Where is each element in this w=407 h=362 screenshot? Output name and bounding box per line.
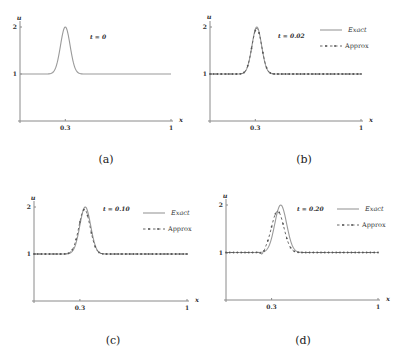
approx-marker [225, 252, 227, 254]
approx-marker [248, 252, 250, 254]
approx-marker [37, 253, 39, 255]
y-axis-label: u [31, 194, 36, 202]
legend-marker [325, 45, 327, 47]
approx-marker [322, 73, 324, 75]
approx-marker [252, 252, 254, 254]
approx-marker [282, 223, 284, 225]
approx-marker [254, 30, 256, 32]
x-axis-label: x [194, 296, 199, 304]
approx-marker [294, 250, 296, 252]
approx-marker [83, 209, 85, 211]
legend: ExactApprox [143, 209, 192, 233]
approx-marker [117, 253, 119, 255]
approx-marker [281, 73, 283, 75]
approx-marker [121, 253, 123, 255]
approx-marker [247, 65, 249, 67]
legend-approx-label: Approx [344, 42, 369, 50]
y-tick-label: 1 [13, 70, 17, 77]
time-label: t = 0.10 [103, 205, 130, 212]
approx-marker [186, 253, 188, 255]
panel-c: 0.3112xut = 0.10ExactApprox(c) [27, 194, 199, 347]
approx-marker [286, 237, 288, 239]
approx-marker [79, 221, 81, 223]
approx-marker [347, 252, 349, 254]
exact-curve [226, 205, 378, 253]
approx-marker [56, 253, 58, 255]
y-tick-label: 1 [203, 70, 207, 77]
approx-marker [366, 252, 368, 254]
approx-marker [290, 247, 292, 249]
approx-marker [217, 73, 219, 75]
approx-marker [159, 253, 161, 255]
approx-marker [236, 73, 238, 75]
approx-marker [220, 73, 222, 75]
x-tick-label: 0.3 [266, 303, 276, 310]
approx-marker [292, 73, 294, 75]
approx-marker [337, 73, 339, 75]
approx-marker [377, 252, 379, 254]
approx-marker [136, 253, 138, 255]
panel-caption: (a) [98, 153, 113, 166]
approx-marker [175, 253, 177, 255]
approx-marker [354, 252, 356, 254]
y-tick-label: 1 [27, 250, 31, 257]
approx-marker [45, 253, 47, 255]
approx-marker [102, 253, 104, 255]
approx-curve [34, 209, 187, 254]
time-label: t = 0.20 [297, 205, 324, 212]
approx-marker [239, 73, 241, 75]
legend-exact-label: Exact [170, 209, 190, 217]
approx-marker [334, 73, 336, 75]
y-tick-label: 1 [219, 249, 223, 256]
approx-marker [266, 67, 268, 69]
approx-marker [305, 252, 307, 254]
y-axis-label: u [17, 14, 22, 22]
approx-marker [332, 252, 334, 254]
exact-curve [34, 207, 187, 254]
y-tick-label: 2 [27, 203, 31, 210]
approx-marker [60, 253, 62, 255]
approx-marker [330, 73, 332, 75]
time-label: t = 0 [90, 33, 107, 40]
approx-marker [300, 73, 302, 75]
approx-marker [33, 253, 35, 255]
x-axis-label: x [178, 116, 183, 124]
x-axis-label: x [385, 295, 390, 303]
approx-marker [71, 249, 73, 251]
approx-marker [178, 253, 180, 255]
approx-marker [297, 251, 299, 253]
approx-marker [339, 252, 341, 254]
approx-marker [324, 252, 326, 254]
x-tick-label: 1 [185, 304, 189, 311]
approx-marker [64, 253, 66, 255]
approx-marker [87, 215, 89, 217]
approx-marker [125, 253, 127, 255]
approx-marker [277, 73, 279, 75]
approx-marker [209, 73, 211, 75]
panel-d: 0.3112xut = 0.20ExactApprox(d) [219, 192, 390, 347]
time-label: t = 0.02 [278, 32, 305, 39]
approx-marker [303, 73, 305, 75]
panel-caption: (d) [295, 334, 311, 347]
approx-marker [360, 73, 362, 75]
legend-marker [334, 45, 336, 47]
panel-caption: (b) [296, 153, 312, 166]
approx-marker [341, 73, 343, 75]
approx-marker [258, 32, 260, 34]
legend-exact-label: Exact [347, 26, 367, 34]
x-axis-label: x [368, 116, 373, 124]
approx-marker [163, 253, 165, 255]
legend-exact-label: Exact [364, 205, 384, 213]
approx-marker [156, 253, 158, 255]
approx-marker [319, 73, 321, 75]
approx-marker [362, 252, 364, 254]
approx-marker [213, 73, 215, 75]
x-tick-label: 0.3 [75, 304, 85, 311]
approx-marker [349, 73, 351, 75]
approx-marker [152, 253, 154, 255]
legend-marker [342, 224, 344, 226]
legend-approx-label: Approx [361, 221, 386, 229]
approx-marker [171, 253, 173, 255]
approx-marker [113, 253, 115, 255]
y-axis-label: u [223, 192, 228, 200]
